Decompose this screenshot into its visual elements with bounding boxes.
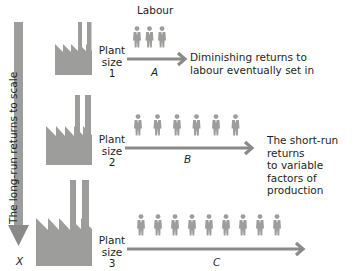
arrow-c-label: C xyxy=(213,256,220,268)
plant-word: Plant xyxy=(97,134,127,146)
plant-size-1-label: Plant size 1 xyxy=(97,45,127,80)
description-line: production xyxy=(267,184,360,197)
plant-size-3-label: Plant size 3 xyxy=(97,235,127,270)
description-line: to variable factors of xyxy=(267,159,360,184)
factory-icon-size-2 xyxy=(46,95,92,165)
size-number: 2 xyxy=(97,157,127,169)
diminishing-returns-description: Diminishing returns to labour eventually… xyxy=(190,51,314,76)
workers-row-3 xyxy=(137,214,281,235)
arrow-a-label: A xyxy=(151,66,158,78)
plant-word: Plant xyxy=(97,235,127,247)
description-line: labour eventually set in xyxy=(190,64,314,77)
labour-label: Labour xyxy=(137,4,173,16)
arrow-c xyxy=(127,243,303,255)
workers-row-2 xyxy=(134,114,240,135)
size-number: 3 xyxy=(97,258,127,270)
workers-row-1 xyxy=(133,26,166,47)
short-run-returns-description: The short-run returns to variable factor… xyxy=(267,134,360,197)
description-line: Diminishing returns to xyxy=(190,51,314,64)
description-line: The short-run returns xyxy=(267,134,360,159)
factory-icon-size-3 xyxy=(36,180,92,266)
factory-icon-size-1 xyxy=(55,22,92,75)
size-number: 1 xyxy=(97,68,127,80)
x-label: X xyxy=(16,255,23,267)
plant-size-2-label: Plant size 2 xyxy=(97,134,127,169)
long-run-returns-label: The long-run returns to scale xyxy=(7,74,19,224)
plant-word: Plant xyxy=(97,45,127,57)
arrow-a xyxy=(127,53,185,65)
arrow-b-label: B xyxy=(184,153,191,165)
